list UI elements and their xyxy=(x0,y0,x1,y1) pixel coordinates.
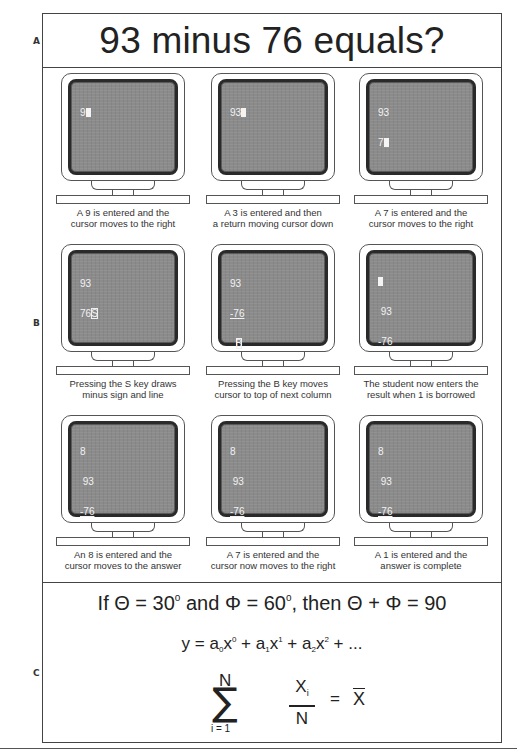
text-cursor xyxy=(241,108,246,117)
step-caption: A 7 is entered and thecursor moves to th… xyxy=(346,207,496,229)
screen-text: 93 -76 xyxy=(378,257,406,367)
step-7: 8 93 -76 An 8 is entered and thecursor m… xyxy=(48,410,198,581)
monitor: 8 93 -76 xyxy=(61,415,185,523)
text-cursor xyxy=(384,138,389,147)
monitor-screen: 93 xyxy=(218,79,328,175)
monitor-screen: 93 -76 B xyxy=(218,250,328,346)
figure-frame: 93 minus 76 equals? 9 A 9 is entered and… xyxy=(42,13,502,743)
keyboard-base xyxy=(354,537,488,546)
keyboard-base xyxy=(206,537,340,546)
b-key-marker: B xyxy=(236,338,243,349)
keyboard-base xyxy=(56,537,190,546)
step-6: 93 -76 The student now enters theresult … xyxy=(346,239,496,410)
screen-text: 93 7 xyxy=(378,88,406,168)
monitor-screen: 8 93 -76 xyxy=(68,421,178,517)
monitor: 8 93 -76 17 xyxy=(359,415,483,523)
section-label-b: B xyxy=(33,318,40,328)
step-2: 93 A 3 is entered and thena return movin… xyxy=(198,68,348,239)
keyboard-base xyxy=(206,366,340,375)
step-caption: Pressing the B key movescursor to top of… xyxy=(198,378,348,400)
keyboard-base xyxy=(354,195,488,204)
screen-text: 8 93 -76 7 xyxy=(230,427,258,567)
screen-text: 9 xyxy=(80,88,108,138)
sigma-symbol: ∑ xyxy=(212,683,238,721)
section-label-a: A xyxy=(33,36,40,46)
text-cursor xyxy=(86,108,91,117)
formula-box: If Θ = 30o and Φ = 60o, then Θ + Φ = 90 … xyxy=(43,582,501,744)
title-box: 93 minus 76 equals? xyxy=(43,14,501,68)
step-1: 9 A 9 is entered and thecursor moves to … xyxy=(48,68,198,239)
monitor-screen: 93 -76 xyxy=(366,250,476,346)
step-caption: The student now enters theresult when 1 … xyxy=(346,378,496,400)
monitor: 93 7 xyxy=(359,73,483,181)
screen-text: 93 76S xyxy=(80,259,108,339)
step-caption: A 9 is entered and thecursor moves to th… xyxy=(48,207,198,229)
text-cursor xyxy=(378,277,383,286)
fraction: Xi N xyxy=(289,677,315,729)
step-caption: An 8 is entered and thecursor moves to t… xyxy=(48,549,198,571)
step-9: 8 93 -76 17 A 1 is entered and theanswer… xyxy=(346,410,496,581)
page-title: 93 minus 76 equals? xyxy=(99,20,444,62)
monitor-screen: 93 76S xyxy=(68,250,178,346)
step-caption: A 1 is entered and theanswer is complete xyxy=(346,549,496,571)
s-key-marker: S xyxy=(91,308,98,319)
formula-angles: If Θ = 30o and Φ = 60o, then Θ + Φ = 90 xyxy=(43,592,501,615)
keyboard-base xyxy=(56,366,190,375)
step-caption: Pressing the S key drawsminus sign and l… xyxy=(48,378,198,400)
monitor-screen: 8 93 -76 17 xyxy=(366,421,476,517)
monitor-screen: 93 7 xyxy=(366,79,476,175)
keyboard-base xyxy=(354,366,488,375)
sum-lower-limit: i = 1 xyxy=(211,723,230,734)
screen-text: 8 93 -76 xyxy=(80,427,108,567)
step-4: 93 76S Pressing the S key drawsminus sig… xyxy=(48,239,198,410)
steps-grid: 9 A 9 is entered and thecursor moves to … xyxy=(43,68,501,582)
monitor: 8 93 -76 7 xyxy=(211,415,335,523)
keyboard-base xyxy=(56,195,190,204)
screen-text: 8 93 -76 17 xyxy=(378,427,406,567)
formula-polynomial: y = a0x0 + a1x1 + a2x2 + ... xyxy=(43,634,501,654)
monitor: 93 -76 B xyxy=(211,244,335,352)
screen-text: 93 xyxy=(230,88,258,138)
monitor: 93 -76 xyxy=(359,244,483,352)
section-label-c: C xyxy=(33,668,40,678)
step-caption: A 7 is entered and thecursor now moves t… xyxy=(198,549,348,571)
step-5: 93 -76 B Pressing the B key movescursor … xyxy=(198,239,348,410)
monitor-screen: 8 93 -76 7 xyxy=(218,421,328,517)
monitor: 9 xyxy=(61,73,185,181)
monitor-screen: 9 xyxy=(68,79,178,175)
monitor: 93 76S xyxy=(61,244,185,352)
mean-x-bar: X xyxy=(353,689,365,710)
monitor: 93 xyxy=(211,73,335,181)
step-8: 8 93 -76 7 A 7 is entered and thecursor … xyxy=(198,410,348,581)
step-caption: A 3 is entered and thena return moving c… xyxy=(198,207,348,229)
bottom-divider xyxy=(0,748,517,749)
keyboard-base xyxy=(206,195,340,204)
formula-mean: N ∑ i = 1 Xi N = X xyxy=(203,671,403,741)
step-3: 93 7 A 7 is entered and thecursor moves … xyxy=(346,68,496,239)
